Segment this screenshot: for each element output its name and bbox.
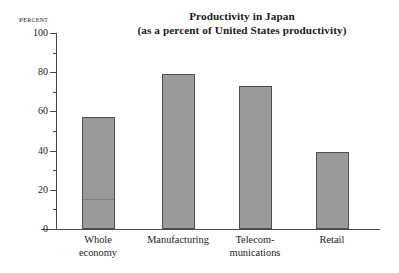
y-tick-minor <box>53 170 57 171</box>
chart-root: Productivity in Japan (as a percent of U… <box>0 0 399 273</box>
y-tick-minor <box>53 92 57 93</box>
y-tick-major <box>50 33 57 34</box>
y-tick-minor <box>53 209 57 210</box>
y-tick-major <box>50 190 57 191</box>
y-tick-label: 40 <box>12 146 48 156</box>
y-tick-minor <box>53 131 57 132</box>
y-tick-major <box>50 151 57 152</box>
bar <box>162 74 195 229</box>
y-tick-minor <box>53 53 57 54</box>
x-axis-line <box>41 229 380 230</box>
x-category-label: Retail <box>282 234 382 247</box>
y-tick-label: 0 <box>12 224 48 234</box>
bar-inner-rule <box>83 199 114 200</box>
y-tick-major <box>50 229 57 230</box>
y-tick-major <box>50 72 57 73</box>
y-tick-label: 100 <box>12 28 48 38</box>
y-tick-major <box>50 111 57 112</box>
plot-area: 100806040200 Whole economyManufacturingT… <box>0 0 399 273</box>
bar <box>239 86 272 229</box>
bar <box>82 117 115 229</box>
y-tick-label: 60 <box>12 106 48 116</box>
y-tick-label: 20 <box>12 185 48 195</box>
y-tick-label: 80 <box>12 67 48 77</box>
bar <box>316 152 349 229</box>
